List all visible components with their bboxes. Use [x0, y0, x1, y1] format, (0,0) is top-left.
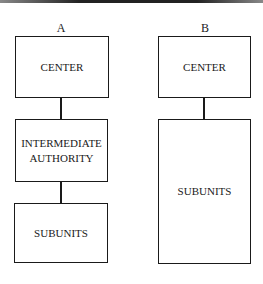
column-b-center-text: CENTER: [183, 60, 226, 75]
column-b-center-box: CENTER: [158, 36, 251, 98]
column-a-center-box: CENTER: [15, 36, 109, 98]
column-a-label: A: [51, 21, 71, 36]
column-b-subunits-text: SUBUNITS: [178, 184, 232, 199]
column-b-label: B: [195, 21, 215, 36]
column-a-center-text: CENTER: [41, 60, 84, 75]
column-a-intermediate-text: INTERMEDIATE AUTHORITY: [16, 136, 107, 166]
column-b-subunits-box: SUBUNITS: [158, 119, 251, 264]
connector-a-center-intermediate: [60, 97, 62, 120]
top-border: [0, 0, 263, 3]
connector-b-center-subunits: [203, 97, 205, 120]
column-a-subunits-text: SUBUNITS: [34, 226, 88, 241]
column-a-subunits-box: SUBUNITS: [14, 203, 108, 263]
connector-a-intermediate-subunits: [60, 181, 62, 204]
column-a-intermediate-box: INTERMEDIATE AUTHORITY: [15, 119, 108, 182]
